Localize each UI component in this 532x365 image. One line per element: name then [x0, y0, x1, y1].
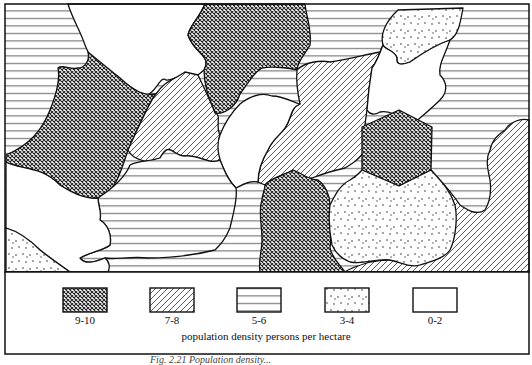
- region-r17-3-4: [329, 170, 456, 266]
- legend-swatch-7-8: [150, 288, 194, 312]
- map-regions: [5, 4, 529, 272]
- figure-caption: Fig. 2.21 Population density...: [150, 354, 271, 365]
- legend-swatch-0-2: [413, 288, 457, 312]
- legend-swatch-3-4: [325, 288, 369, 312]
- legend-caption: population density persons per hectare: [0, 330, 532, 342]
- legend-label-7-8: 7-8: [142, 314, 202, 326]
- legend-label-3-4: 3-4: [317, 314, 377, 326]
- legend-label-5-6: 5-6: [229, 314, 289, 326]
- legend-label-9-10: 9-10: [55, 314, 115, 326]
- legend-swatch-9-10: [63, 288, 107, 312]
- legend-swatch-5-6: [237, 288, 281, 312]
- legend-label-0-2: 0-2: [405, 314, 465, 326]
